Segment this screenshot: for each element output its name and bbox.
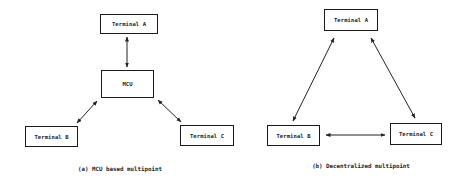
node-label: Terminal B: [34, 134, 68, 140]
node-terminal-b: Terminal B: [25, 126, 78, 147]
arrow-mcu-terminal-c: [158, 100, 181, 122]
node-terminal-a: Terminal A: [324, 9, 378, 31]
node-terminal-c: Terminal C: [390, 123, 442, 145]
caption-a: (a) MCU based multipoint: [78, 166, 162, 172]
arrow-mcu-terminal-b: [77, 101, 97, 123]
node-label: Terminal A: [334, 17, 368, 23]
caption-b: (b) Decentralized multipoint: [312, 163, 410, 169]
node-terminal-b: Terminal B: [267, 125, 320, 146]
node-label: Terminal A: [112, 21, 146, 27]
node-terminal-a: Terminal A: [100, 14, 158, 34]
arrow-terminal-a-terminal-b: [293, 38, 334, 121]
node-label: Terminal B: [276, 133, 310, 139]
connection-arrows: [0, 0, 465, 185]
node-label: MCU: [122, 81, 132, 87]
node-label: Terminal C: [399, 131, 433, 137]
node-terminal-c: Terminal C: [180, 125, 234, 146]
node-label: Terminal C: [190, 133, 224, 139]
node-mcu: MCU: [101, 70, 154, 98]
arrow-terminal-a-terminal-c: [371, 38, 415, 118]
